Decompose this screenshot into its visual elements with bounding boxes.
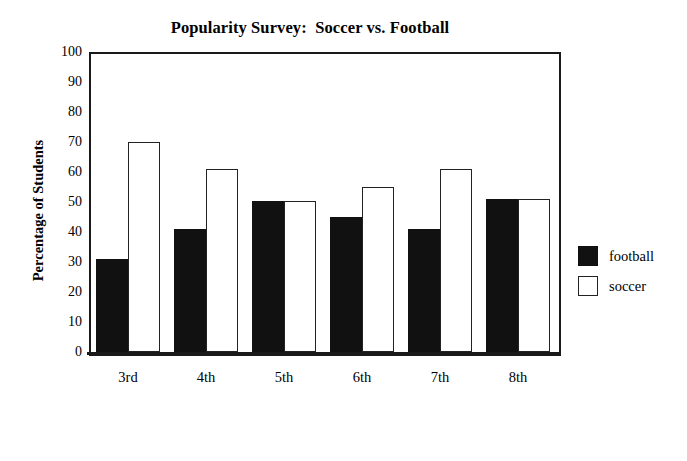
y-tick-label: 80 bbox=[42, 105, 82, 119]
x-tick-label: 3rd bbox=[89, 368, 167, 386]
x-axis-tick-labels: 3rd4th5th6th7th8th bbox=[89, 368, 557, 392]
bar-soccer-5th bbox=[284, 201, 316, 353]
bar-chart: Popularity Survey: Soccer vs. Football P… bbox=[0, 0, 687, 461]
legend: footballsoccer bbox=[578, 241, 683, 301]
bar-football-6th bbox=[330, 217, 362, 352]
legend-swatch-soccer bbox=[578, 276, 598, 296]
y-tick-label: 90 bbox=[42, 75, 82, 89]
chart-title: Popularity Survey: Soccer vs. Football bbox=[0, 18, 620, 38]
y-tick-label: 60 bbox=[42, 165, 82, 179]
y-axis-tick-labels: 1009080706050403020100 bbox=[38, 0, 82, 461]
x-axis-line bbox=[87, 352, 559, 355]
y-tick-label: 20 bbox=[42, 285, 82, 299]
y-tick-label: 70 bbox=[42, 135, 82, 149]
y-tick-label: 10 bbox=[42, 315, 82, 329]
bar-football-8th bbox=[486, 199, 518, 352]
y-tick-label: 40 bbox=[42, 225, 82, 239]
y-tick-label: 30 bbox=[42, 255, 82, 269]
bar-soccer-4th bbox=[206, 169, 238, 352]
legend-label: soccer bbox=[609, 278, 646, 295]
x-tick-label: 4th bbox=[167, 368, 245, 386]
legend-swatch-football bbox=[578, 246, 598, 266]
bar-football-4th bbox=[174, 229, 206, 352]
x-tick-label: 7th bbox=[401, 368, 479, 386]
legend-item-football: football bbox=[578, 241, 683, 271]
bar-soccer-8th bbox=[518, 199, 550, 352]
x-tick-label: 8th bbox=[479, 368, 557, 386]
bar-football-7th bbox=[408, 229, 440, 352]
x-tick-label: 5th bbox=[245, 368, 323, 386]
x-tick-label: 6th bbox=[323, 368, 401, 386]
legend-item-soccer: soccer bbox=[578, 271, 683, 301]
y-tick-label: 0 bbox=[42, 345, 82, 359]
legend-label: football bbox=[609, 248, 654, 265]
bar-football-3rd bbox=[96, 259, 128, 352]
bar-soccer-3rd bbox=[128, 142, 160, 352]
bars-layer bbox=[89, 52, 557, 352]
y-tick-label: 100 bbox=[42, 45, 82, 59]
bar-soccer-7th bbox=[440, 169, 472, 352]
bar-soccer-6th bbox=[362, 187, 394, 352]
y-tick-label: 50 bbox=[42, 195, 82, 209]
bar-football-5th bbox=[252, 201, 284, 353]
